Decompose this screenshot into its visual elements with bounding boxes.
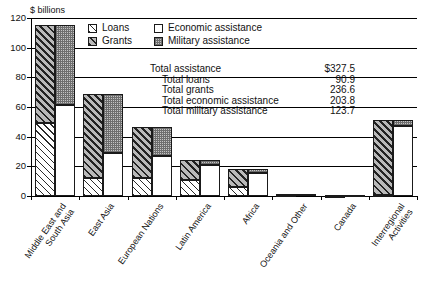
x-axis-tick-mark <box>272 196 273 200</box>
category-label: Canada <box>332 202 358 233</box>
bar-segment-military <box>393 120 413 127</box>
legend-item-grants: Grants <box>88 35 132 47</box>
bar-segment-grants <box>276 194 296 196</box>
category-label: Africa <box>241 202 262 226</box>
category-label: European Nations <box>116 202 165 266</box>
x-axis-tick-mark <box>128 196 129 200</box>
category-label: Latin America <box>174 202 213 252</box>
category-label: Interregional Activities <box>370 202 414 254</box>
y-axis-tick-label: 120 <box>0 13 26 22</box>
y-axis-tick-label: 40 <box>0 132 26 141</box>
bar-segment-grants <box>83 94 103 178</box>
bar-segment-loans <box>276 195 296 197</box>
legend-swatch-loans-icon <box>88 24 97 33</box>
legend-item-loans: Loans <box>88 22 132 34</box>
x-axis-tick-mark <box>176 196 177 200</box>
totals-value: $327.5 <box>324 64 355 75</box>
x-axis-tick-mark <box>79 196 80 200</box>
y-axis-tick-label: 20 <box>0 161 26 170</box>
totals-label: Total assistance <box>150 64 221 75</box>
category-label: East Asia <box>87 202 116 238</box>
bar-purpose-stack <box>393 0 413 196</box>
bar-segment-grants <box>180 160 200 180</box>
category-label: Middle East and South Asia <box>24 202 77 266</box>
legend-label-loans: Loans <box>102 22 129 34</box>
bar-type-stack <box>35 0 55 196</box>
x-axis-tick-mark <box>321 196 322 200</box>
bar-segment-grants <box>35 25 55 122</box>
legend-label-military-assistance: Military assistance <box>168 35 250 47</box>
totals-panel: Total assistance $327.5 Total loans 90.9… <box>150 64 355 117</box>
y-axis-tick-label: 0 <box>0 191 26 200</box>
bar-segment-economic <box>393 126 413 196</box>
legend-item-economic-assistance: Economic assistance <box>154 22 262 34</box>
bar-segment-military <box>248 169 268 173</box>
totals-row: Total military assistance 123.7 <box>150 106 355 117</box>
bar-segment-military <box>103 94 123 153</box>
legend-swatch-grants-icon <box>88 37 97 46</box>
legend-item-military-assistance: Military assistance <box>154 35 262 47</box>
totals-value: 123.7 <box>330 106 355 117</box>
legend-swatch-economic-icon <box>154 24 163 33</box>
bar-segment-loans <box>180 180 200 196</box>
bar-segment-economic <box>296 194 316 196</box>
legend-label-economic-assistance: Economic assistance <box>168 22 262 34</box>
bar-segment-economic <box>152 156 172 196</box>
x-axis-tick-mark <box>224 196 225 200</box>
category-label: Oceania and Other <box>259 202 310 270</box>
bar-segment-military <box>55 25 75 104</box>
y-axis-line <box>31 18 32 196</box>
bar-segment-grants <box>373 120 393 195</box>
aid-assistance-bar-chart: $ billions 120100806040200 Middle East a… <box>0 0 424 291</box>
x-axis-tick-mark <box>417 196 418 200</box>
bar-segment-grants <box>325 195 345 197</box>
bar-segment-grants <box>132 127 152 178</box>
legend-label-grants: Grants <box>102 35 132 47</box>
bar-segment-economic <box>200 165 220 196</box>
bar-segment-military <box>345 195 365 197</box>
bar-segment-military <box>152 127 172 156</box>
bar-segment-economic <box>55 105 75 196</box>
legend-swatch-military-icon <box>154 37 163 46</box>
bar-segment-economic <box>248 173 268 196</box>
bar-segment-loans <box>83 178 103 196</box>
bar-segment-loans <box>35 123 55 196</box>
bar-segment-loans <box>132 178 152 196</box>
bar-segment-grants <box>228 169 248 188</box>
y-axis-tick-label: 100 <box>0 43 26 52</box>
chart-legend: Loans Economic assistance Grants Militar… <box>88 22 262 47</box>
bar-type-stack <box>373 0 393 196</box>
totals-row: Total assistance $327.5 <box>150 64 355 75</box>
bar-segment-loans <box>228 187 248 196</box>
y-axis-tick-label: 60 <box>0 102 26 111</box>
bar-segment-military <box>200 160 220 165</box>
totals-label: Total military assistance <box>150 106 268 117</box>
y-axis-tick-labels: 120100806040200 <box>0 0 26 291</box>
x-axis-tick-mark <box>369 196 370 200</box>
bar-purpose-stack <box>55 0 75 196</box>
bar-segment-economic <box>103 153 123 196</box>
y-axis-tick-label: 80 <box>0 72 26 81</box>
bar-segment-loans <box>373 195 393 197</box>
x-axis-tick-mark <box>31 196 32 200</box>
